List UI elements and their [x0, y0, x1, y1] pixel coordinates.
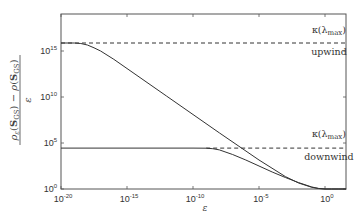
axes-box — [61, 14, 346, 189]
series-upwind — [61, 43, 346, 189]
series-lines — [61, 43, 346, 189]
downwind-kappa-label: κ(λmax) — [312, 128, 346, 141]
x-tick-label: 10-15 — [120, 193, 139, 204]
upwind-kappa-label: κ(λmax) — [312, 24, 346, 37]
y-tick-label: 105 — [44, 137, 58, 148]
y-tick-label: 100 — [44, 183, 58, 194]
y-axis-ticks: 10010510101015 — [40, 45, 346, 194]
chart: 10-2010-1510-1010-5100 10010510101015 κ(… — [0, 0, 359, 220]
y-label-denominator: ε — [22, 97, 33, 102]
x-axis-label: ε — [203, 203, 208, 213]
plot-frame — [61, 14, 346, 189]
upwind-label: upwind — [311, 46, 347, 57]
y-axis-label: ρε(SGS) − ρ(SGS)ε — [8, 55, 33, 145]
x-tick-label: 100 — [320, 193, 334, 204]
x-tick-label: 10-5 — [253, 193, 269, 204]
y-tick-label: 1015 — [40, 45, 57, 56]
y-label-numerator: ρε(SGS) − ρ(SGS) — [8, 59, 21, 141]
downwind-label: downwind — [304, 151, 353, 162]
x-tick-label: 10-20 — [54, 193, 73, 204]
y-tick-label: 1010 — [40, 91, 57, 102]
